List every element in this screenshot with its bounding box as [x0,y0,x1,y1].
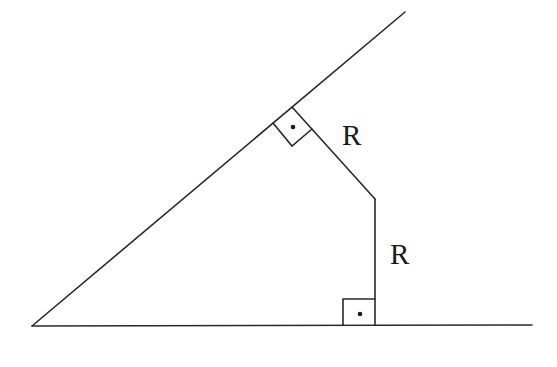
angle-diagram: R R [0,0,557,367]
label-upper-r: R [342,119,362,151]
perpendicular-to-upper-side [292,107,375,199]
upper-ray [32,12,405,326]
lower-ray [32,325,532,326]
right-angle-dot-lower [358,312,363,317]
label-lower-r: R [390,238,410,270]
right-angle-dot-upper [291,125,296,130]
